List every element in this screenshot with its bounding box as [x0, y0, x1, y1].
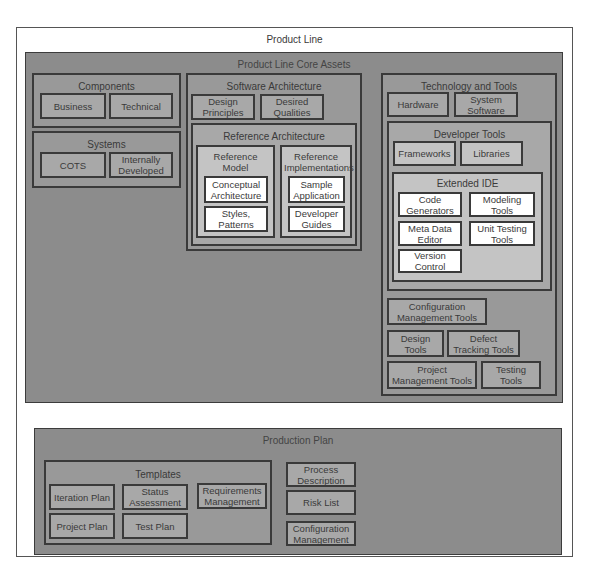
- extended-ide-title: Extended IDE: [394, 178, 541, 189]
- box-developer-guides: Developer Guides: [288, 206, 345, 232]
- box-system-software: System Software: [454, 92, 518, 117]
- box-version-control: Version Control: [398, 249, 462, 273]
- box-code-generators: Code Generators: [398, 192, 462, 217]
- box-status-assessment: Status Assessment: [122, 484, 188, 510]
- box-configuration-management-tools: Configuration Management Tools: [387, 298, 487, 325]
- box-cots: COTS: [40, 152, 106, 178]
- box-frameworks: Frameworks: [393, 141, 456, 166]
- reference-implementations-title: Reference Implementations: [284, 151, 348, 173]
- technology-and-tools-title: Technology and Tools: [383, 81, 555, 92]
- box-modeling-tools: Modeling Tools: [469, 192, 535, 217]
- templates-title: Templates: [46, 469, 270, 480]
- developer-tools-title: Developer Tools: [389, 129, 550, 140]
- components-title: Components: [34, 81, 179, 92]
- box-sample-application: Sample Application: [288, 176, 345, 203]
- box-libraries: Libraries: [460, 141, 523, 166]
- box-internally-developed: Internally Developed: [109, 152, 173, 178]
- box-meta-data-editor: Meta Data Editor: [398, 221, 462, 246]
- box-project-plan: Project Plan: [49, 513, 115, 539]
- box-iteration-plan: Iteration Plan: [49, 484, 115, 510]
- box-design-tools: Design Tools: [387, 330, 444, 357]
- box-configuration-management: Configuration Management: [286, 521, 356, 546]
- box-process-description: Process Description: [286, 462, 356, 487]
- core-assets-title: Product Line Core Assets: [26, 59, 562, 70]
- box-test-plan: Test Plan: [122, 513, 188, 539]
- reference-model-title: Reference Model: [206, 151, 265, 173]
- box-unit-testing-tools: Unit Testing Tools: [469, 221, 535, 246]
- box-business: Business: [40, 93, 106, 119]
- box-styles-patterns: Styles, Patterns: [204, 206, 268, 232]
- box-project-management-tools: Project Management Tools: [387, 361, 477, 389]
- software-architecture-title: Software Architecture: [188, 81, 360, 92]
- box-risk-list: Risk List: [286, 490, 356, 515]
- product-line-title: Product Line: [17, 34, 572, 45]
- production-plan-title: Production Plan: [35, 435, 561, 446]
- box-technical: Technical: [109, 93, 173, 119]
- box-desired-qualities: Desired Qualities: [260, 94, 324, 120]
- systems-title: Systems: [34, 139, 179, 150]
- box-design-principles: Design Principles: [191, 94, 255, 120]
- box-hardware: Hardware: [387, 92, 449, 117]
- box-defect-tracking-tools: Defect Tracking Tools: [447, 330, 520, 357]
- reference-architecture-title: Reference Architecture: [193, 131, 355, 142]
- box-requirements-management: Requirements Management: [197, 483, 267, 509]
- box-testing-tools: Testing Tools: [481, 361, 541, 389]
- box-conceptual-architecture: Conceptual Architecture: [204, 176, 268, 203]
